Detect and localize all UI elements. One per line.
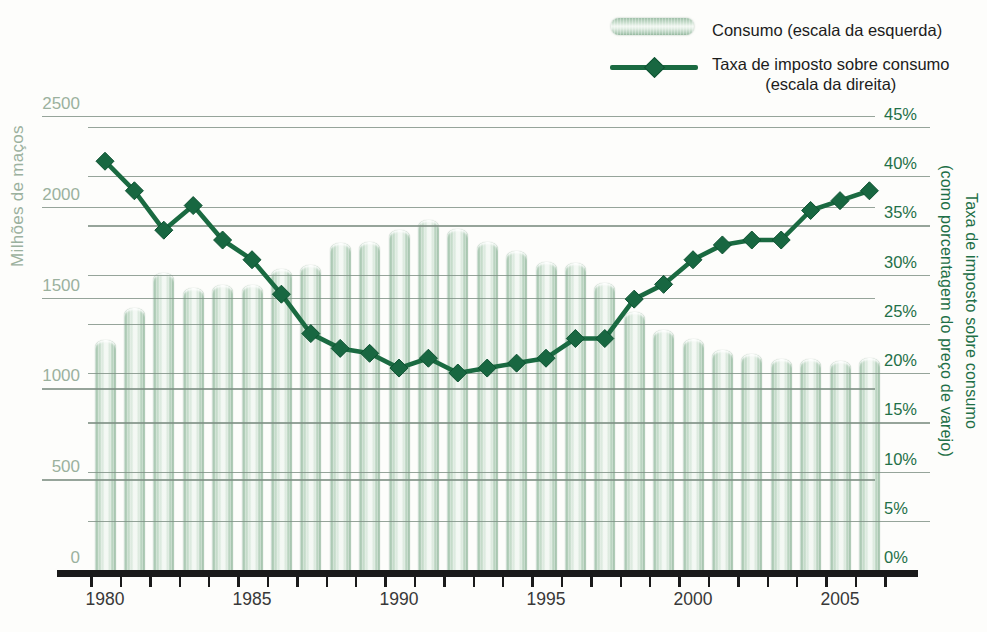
- right-axis-tick-label: 10%: [884, 450, 930, 469]
- x-axis-tick: [326, 576, 329, 587]
- tax-point-1988: [331, 339, 349, 357]
- x-axis-tick: [796, 576, 799, 587]
- chart-canvas: Consumo (escala da esquerda) Taxa de imp…: [0, 0, 987, 632]
- x-axis-tick: [590, 576, 593, 587]
- right-axis-tick-label: 25%: [884, 302, 930, 321]
- x-axis-tick: [90, 576, 93, 587]
- left-axis-tick-label: 500: [30, 457, 80, 477]
- tax-point-1994: [508, 354, 526, 372]
- left-axis-tick-label: 1500: [30, 276, 80, 296]
- x-axis-tick: [208, 576, 211, 587]
- year-label-1985: 1985: [217, 589, 287, 610]
- tax-point-1991: [419, 349, 437, 367]
- x-axis-tick: [502, 576, 505, 587]
- year-label-2005: 2005: [805, 589, 875, 610]
- left-axis-tick-label: 1000: [30, 366, 80, 386]
- x-axis-tick: [179, 576, 182, 587]
- tax-point-1990: [390, 359, 408, 377]
- x-axis-tick: [825, 576, 828, 587]
- x-axis-line: [57, 570, 918, 577]
- x-axis-tick: [355, 576, 358, 587]
- tax-point-2005: [831, 192, 849, 210]
- right-axis-tick-label: 40%: [884, 154, 930, 173]
- x-axis-tick: [443, 576, 446, 587]
- x-axis-tick: [855, 576, 858, 587]
- left-axis-tick-label: 2500: [30, 94, 80, 114]
- tax-point-2002: [743, 231, 761, 249]
- tax-point-1992: [449, 364, 467, 382]
- x-axis-tick: [237, 576, 240, 587]
- tax-rate-line-layer: [0, 0, 987, 632]
- tax-rate-line: [105, 161, 869, 373]
- tax-point-1993: [478, 359, 496, 377]
- x-axis-tick: [884, 576, 887, 587]
- x-axis-tick: [767, 576, 770, 587]
- x-axis-tick: [708, 576, 711, 587]
- x-axis-tick: [737, 576, 740, 587]
- x-axis-tick: [149, 576, 152, 587]
- left-axis-tick-label: 0: [30, 548, 80, 568]
- x-axis-tick: [296, 576, 299, 587]
- x-axis-tick: [649, 576, 652, 587]
- tax-point-2006: [860, 182, 878, 200]
- right-axis-tick-label: 5%: [884, 499, 930, 518]
- year-label-1995: 1995: [511, 589, 581, 610]
- right-axis-tick-label: 15%: [884, 400, 930, 419]
- x-axis-tick: [620, 576, 623, 587]
- year-label-1980: 1980: [70, 589, 140, 610]
- right-axis-tick-label: 0%: [884, 548, 930, 567]
- x-axis-tick: [561, 576, 564, 587]
- x-axis-tick: [414, 576, 417, 587]
- left-axis-tick-label: 2000: [30, 185, 80, 205]
- right-axis-tick-label: 30%: [884, 253, 930, 272]
- x-axis-tick: [384, 576, 387, 587]
- year-label-2000: 2000: [658, 589, 728, 610]
- x-axis-tick: [120, 576, 123, 587]
- x-axis-tick: [678, 576, 681, 587]
- right-axis-tick-label: 20%: [884, 351, 930, 370]
- x-axis-tick: [267, 576, 270, 587]
- tax-point-1989: [361, 344, 379, 362]
- tax-point-2001: [713, 236, 731, 254]
- year-label-1990: 1990: [364, 589, 434, 610]
- x-axis-tick: [473, 576, 476, 587]
- right-axis-tick-label: 35%: [884, 203, 930, 222]
- right-axis-tick-label: 45%: [884, 105, 930, 124]
- x-axis-tick: [531, 576, 534, 587]
